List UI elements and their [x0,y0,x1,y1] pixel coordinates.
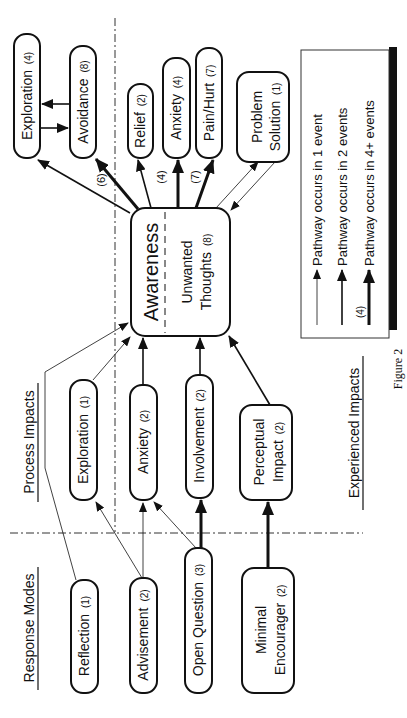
node-anxiety-process: Anxiety (2) [130,385,157,500]
edge-advisement-exploration [96,502,142,578]
svg-text:Perceptual: Perceptual [251,419,267,486]
node-anxiety-experienced: Anxiety (4) [163,58,190,158]
node-exploration-process: Exploration (1) [70,380,97,500]
edge-awareness-relief [138,160,151,208]
section-label-response-modes: Response Modes [21,574,37,683]
experienced-impacts-nodes: Exploration (4) Avoidance (8) Relief (2)… [14,34,289,162]
node-avoidance: Avoidance (8) [70,46,96,158]
node-problem-solution: Problem Solution (1) [237,72,289,162]
legend-shadow [389,47,397,330]
response-modes-nodes: Reflection (1) Advisement (2) Open Quest… [71,548,294,693]
node-open-question: Open Question (3) [185,548,212,693]
node-relief: Relief (2) [128,84,153,158]
svg-text:Minimal: Minimal [253,606,269,654]
svg-text:Problem: Problem [249,91,265,143]
legend-count-example: (4) [355,306,366,318]
unwanted-thoughts-line1: Unwanted [179,240,195,303]
edge-label-painhurt: (7) [189,170,201,183]
section-label-process-impacts: Process Impacts [21,390,37,493]
node-awareness: Awareness Unwanted Thoughts (8) [131,208,230,336]
node-involvement: Involvement (2) [186,375,213,498]
edge-perceptual-awareness [229,336,270,405]
section-label-experienced-impacts: Experienced Impacts [346,368,362,499]
edge-label-avoidance: (6) [95,173,107,186]
node-perceptual-impact: Perceptual Impact (2) [240,405,292,500]
process-impacts-nodes: Exploration (1) Anxiety (2) Involvement … [70,375,292,500]
edge-awareness-exploration [38,160,130,213]
edge-exploration-awareness [93,337,130,380]
node-pain-hurt: Pain/Hurt (7) [196,48,222,158]
svg-text:Pathway occurs in 4+ events: Pathway occurs in 4+ events [362,100,377,266]
node-reflection: Reflection (1) [71,580,98,693]
edge-openquestion-anxiety [154,502,196,548]
node-minimal-encourager: Minimal Encourager (2) [242,568,294,693]
legend: Pathway occurs in 1 event Pathway occurs… [301,47,397,338]
svg-text:Pathway occurs in 2 events: Pathway occurs in 2 events [335,107,350,266]
edge-label-anxiety: (4) [155,170,167,183]
svg-text:Pathway occurs in 1 event: Pathway occurs in 1 event [310,114,325,266]
figure-caption: Figure 2 [391,349,405,389]
awareness-title: Awareness [140,223,162,322]
figure-2-diagram: (6) (4) (7) Exploration (4) Avoidance (8… [0,0,407,718]
edge-awareness-problemsolution [216,162,258,208]
svg-text:Open Question (3): Open Question (3) [190,564,206,676]
edge-problemsolution-awareness [231,162,275,210]
node-advisement: Advisement (2) [130,578,157,693]
node-exploration-experienced: Exploration (4) [14,34,40,158]
